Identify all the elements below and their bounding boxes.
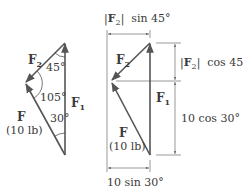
label-10sin30: 10 sin 30°: [107, 176, 164, 189]
left-vector-triangle: F2 45° 105° F1 30° F (10 lb): [6, 43, 85, 155]
label-10cos30: 10 cos 30°: [181, 112, 240, 125]
angle-30-label: 30°: [50, 112, 70, 125]
right-f-magnitude: (10 lb): [109, 140, 146, 153]
right-f2-label: F2: [116, 53, 130, 69]
angle-105-label: 105°: [40, 91, 67, 104]
right-f-label: F: [119, 126, 128, 140]
left-f1-label: F1: [71, 96, 85, 112]
angle-arc-30: [55, 133, 65, 136]
right-vector-triangle: |F2| sin 45° F2 |F2| cos 45° F1 10 cos 3…: [104, 12, 243, 189]
angle-45-label: 45°: [46, 61, 66, 74]
left-f-label: F: [17, 110, 26, 124]
force-diagram: F2 45° 105° F1 30° F (10 lb) |F2| sin 45…: [0, 0, 243, 193]
angle-arc-45: [55, 53, 65, 57]
label-f2-sin45: |F2| sin 45°: [104, 12, 171, 27]
left-f2-label: F2: [28, 53, 42, 69]
left-f-magnitude: (10 lb): [6, 124, 43, 137]
label-f2-cos45: |F2| cos 45°: [180, 56, 243, 71]
right-f1-label: F1: [156, 91, 170, 107]
